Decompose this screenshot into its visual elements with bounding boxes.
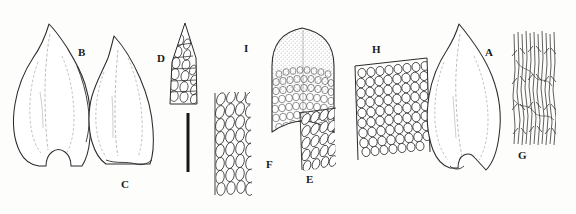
panel-label-g: G bbox=[518, 150, 527, 161]
panel-e-cells-drawing bbox=[299, 107, 338, 172]
illustration-canvas bbox=[0, 0, 576, 214]
panel-f-cells-drawing bbox=[214, 89, 256, 196]
figure-plate: B C D I F E H A G bbox=[0, 0, 576, 214]
panel-label-b: B bbox=[78, 47, 86, 58]
panel-h-cells-drawing bbox=[355, 58, 432, 160]
panel-label-a: A bbox=[485, 47, 493, 58]
panel-label-e: E bbox=[306, 174, 314, 185]
panel-label-c: C bbox=[121, 179, 129, 190]
panel-c-leaf-drawing bbox=[89, 36, 153, 165]
panel-label-f: F bbox=[266, 159, 273, 170]
panel-d-apex-drawing bbox=[169, 23, 198, 105]
panel-label-h: H bbox=[372, 44, 381, 55]
panel-g-cells-drawing bbox=[512, 31, 556, 145]
panel-label-i: I bbox=[244, 43, 248, 54]
panel-label-d: D bbox=[157, 53, 165, 64]
